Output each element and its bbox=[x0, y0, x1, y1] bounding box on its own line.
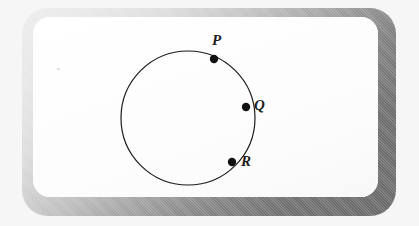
point-dot-q bbox=[242, 103, 250, 111]
point-label-q: Q bbox=[254, 98, 265, 113]
point-dot-p bbox=[210, 55, 218, 63]
point-label-p: P bbox=[212, 33, 221, 48]
point-dot-r bbox=[228, 158, 236, 166]
figure-canvas: P Q R bbox=[0, 0, 419, 226]
circle-diagram bbox=[0, 0, 419, 226]
point-label-r: R bbox=[241, 154, 251, 169]
